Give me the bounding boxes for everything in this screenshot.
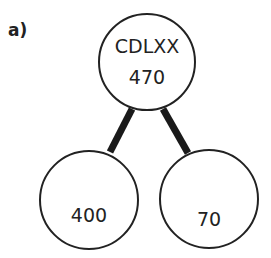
root-number: 470 [99, 66, 195, 88]
left-node-number: 400 [41, 204, 137, 226]
connector-left [110, 109, 132, 152]
connector-right [163, 109, 188, 153]
root-node-circle [99, 14, 195, 110]
right-node-number: 70 [161, 208, 257, 230]
left-node-circle [40, 151, 138, 249]
root-roman-numeral: CDLXX [99, 35, 195, 57]
right-node-circle [160, 150, 258, 248]
